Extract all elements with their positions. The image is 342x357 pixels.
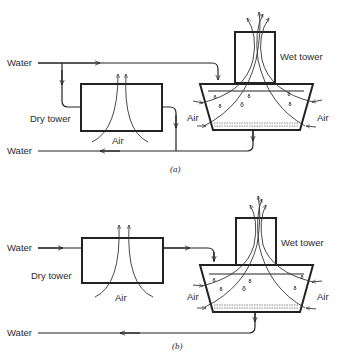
- label-water-out-a: Water: [7, 145, 32, 156]
- caption-a: (a): [170, 164, 181, 174]
- wet-tower-air-flow-b: [193, 196, 322, 309]
- water-outlet-line-b: [38, 312, 255, 333]
- water-surface-a: [214, 123, 299, 126]
- water-inlet-line-a: [38, 63, 218, 80]
- label-dry-tower-b: Dry tower: [31, 270, 72, 281]
- label-air-left-a: Air: [187, 112, 199, 123]
- label-water-in-b: Water: [7, 242, 32, 253]
- dry-tower-box-b: [82, 238, 163, 283]
- label-dry-tower-a: Dry tower: [30, 113, 71, 124]
- wet-tower-air-flow-a: [193, 12, 322, 127]
- label-wet-tower-b: Wet tower: [281, 237, 324, 248]
- dry-tower-outlet-a: [162, 107, 176, 151]
- cooling-tower-diagram: Water Dry tower Air Water Wet tower Air …: [0, 0, 342, 357]
- branch-to-dry-tower-a: [62, 63, 81, 107]
- panel-a: Water Dry tower Air Water Wet tower Air …: [7, 12, 329, 174]
- water-surface-b: [214, 305, 299, 308]
- dry-tower-box-a: [81, 84, 162, 131]
- label-water-in-a: Water: [7, 57, 32, 68]
- label-dry-air-a: Air: [112, 135, 124, 146]
- label-wet-tower-a: Wet tower: [280, 51, 323, 62]
- label-air-right-a: Air: [317, 112, 329, 123]
- dry-to-wet-pipe-b: [163, 248, 214, 262]
- dry-tower-air-flow-b: [95, 225, 153, 297]
- caption-b: (b): [172, 341, 183, 351]
- label-water-out-b: Water: [7, 327, 32, 338]
- panel-b: Water Dry tower Air Water Wet tower Air …: [7, 196, 329, 351]
- label-air-right-b: Air: [317, 291, 329, 302]
- label-dry-air-b: Air: [115, 292, 127, 303]
- label-air-left-b: Air: [187, 291, 199, 302]
